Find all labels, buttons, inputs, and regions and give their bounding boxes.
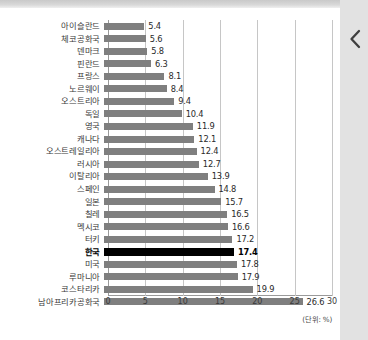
- bar: [104, 211, 227, 218]
- bar-category-label: 핀란드: [0, 60, 104, 68]
- bar: [104, 73, 164, 80]
- table-row: 오스트레일리아12.4: [0, 145, 340, 158]
- bar: [104, 248, 234, 256]
- bar-category-label: 이탈리아: [0, 172, 104, 180]
- table-row: 러시아12.7: [0, 158, 340, 171]
- bar-category-label: 일본: [0, 198, 104, 206]
- bar-track: 13.9: [104, 170, 340, 183]
- bar-track: 5.6: [104, 33, 340, 46]
- bar-track: 9.4: [104, 95, 340, 108]
- bar: [104, 273, 238, 280]
- x-tick-label: 30: [327, 298, 337, 306]
- bar-value-label: 16.5: [231, 210, 249, 218]
- bar-value-label: 17.9: [242, 273, 260, 281]
- bar-category-label: 러시아: [0, 160, 104, 168]
- bar-category-label: 오스트레일리아: [0, 147, 104, 155]
- bar: [104, 123, 193, 130]
- bar-category-label: 스페인: [0, 185, 104, 193]
- x-tick-label: 0: [105, 298, 110, 306]
- table-row: 스페인14.8: [0, 183, 340, 196]
- x-tick-label: 20: [252, 298, 262, 306]
- bar-value-label: 6.3: [155, 60, 168, 68]
- bar-category-label: 캐나다: [0, 135, 104, 143]
- bar-value-label: 17.2: [236, 235, 254, 243]
- bar-track: 16.5: [104, 208, 340, 221]
- bar-value-label: 5.4: [148, 22, 161, 30]
- bar-chart: 아이슬란드5.4체코공화국5.6덴마크5.8핀란드6.3프랑스8.1노르웨이8.…: [0, 8, 340, 340]
- bar: [104, 35, 146, 42]
- bar-value-label: 12.4: [201, 147, 219, 155]
- bar-value-label: 9.4: [178, 97, 191, 105]
- bar-category-label: 터키: [0, 235, 104, 243]
- chevron-left-icon[interactable]: [344, 26, 366, 52]
- bar: [104, 23, 144, 30]
- bar-category-label: 한국: [0, 248, 104, 256]
- table-row: 터키17.2: [0, 233, 340, 246]
- bar-category-label: 아이슬란드: [0, 22, 104, 30]
- bar-category-label: 오스트리아: [0, 97, 104, 105]
- bar-track: 5.4: [104, 20, 340, 33]
- bar-value-label: 17.4: [238, 248, 258, 256]
- bar-value-label: 5.8: [151, 47, 164, 55]
- bar-category-label: 체코공화국: [0, 35, 104, 43]
- bar: [104, 60, 151, 67]
- bar-track: 15.7: [104, 195, 340, 208]
- bar-track: 5.8: [104, 45, 340, 58]
- unit-note: (단위: %): [302, 314, 332, 324]
- table-row: 독일10.4: [0, 108, 340, 121]
- bar: [104, 161, 199, 168]
- table-row: 프랑스8.1: [0, 70, 340, 83]
- bar-value-label: 14.8: [219, 185, 237, 193]
- table-row: 루마니아17.9: [0, 271, 340, 284]
- bar-value-label: 11.9: [197, 122, 215, 130]
- table-row: 오스트리아9.4: [0, 95, 340, 108]
- bar-category-label: 루마니아: [0, 273, 104, 281]
- bar-value-label: 12.1: [198, 135, 216, 143]
- bar: [104, 110, 182, 117]
- bar-value-label: 19.9: [257, 285, 275, 293]
- bar-value-label: 13.9: [212, 172, 230, 180]
- bar: [104, 223, 228, 230]
- table-row: 체코공화국5.6: [0, 33, 340, 46]
- bar: [104, 48, 147, 55]
- bar-track: 17.8: [104, 258, 340, 271]
- table-row: 영국11.9: [0, 120, 340, 133]
- table-row: 미국17.8: [0, 258, 340, 271]
- bar-category-label: 독일: [0, 110, 104, 118]
- bar-category-label: 미국: [0, 260, 104, 268]
- bar: [104, 148, 197, 155]
- bar: [104, 98, 174, 105]
- bar-track: 16.6: [104, 221, 340, 234]
- bar-category-label: 프랑스: [0, 72, 104, 80]
- table-row: 아이슬란드5.4: [0, 20, 340, 33]
- bar-track: 12.4: [104, 145, 340, 158]
- bar: [104, 186, 215, 193]
- bar-value-label: 16.6: [232, 223, 250, 231]
- bar-rows: 아이슬란드5.4체코공화국5.6덴마크5.8핀란드6.3프랑스8.1노르웨이8.…: [0, 20, 340, 296]
- bar-value-label: 8.1: [168, 72, 181, 80]
- bar-track: 14.8: [104, 183, 340, 196]
- bar-category-label: 노르웨이: [0, 85, 104, 93]
- bar-track: 12.1: [104, 133, 340, 146]
- bar-track: 6.3: [104, 58, 340, 71]
- table-row: 캐나다12.1: [0, 133, 340, 146]
- table-row: 멕시코16.6: [0, 221, 340, 234]
- bar: [104, 261, 237, 268]
- bar-track: 17.4: [104, 246, 340, 259]
- bar-value-label: 5.6: [150, 35, 163, 43]
- bar-track: 17.9: [104, 271, 340, 284]
- x-axis-ticks: 051015202530: [108, 298, 332, 312]
- bar-category-label: 덴마크: [0, 47, 104, 55]
- bar-track: 19.9: [104, 283, 340, 296]
- bar-track: 12.7: [104, 158, 340, 171]
- bar-track: 11.9: [104, 120, 340, 133]
- bar-category-label: 영국: [0, 122, 104, 130]
- bar: [104, 85, 167, 92]
- bar: [104, 236, 232, 243]
- table-row: 코스타리카19.9: [0, 283, 340, 296]
- bar-track: 10.4: [104, 108, 340, 121]
- page-root: 아이슬란드5.4체코공화국5.6덴마크5.8핀란드6.3프랑스8.1노르웨이8.…: [0, 0, 368, 340]
- bar-category-label: 남아프리카공화국: [0, 298, 104, 306]
- bar-track: 8.1: [104, 70, 340, 83]
- table-row: 이탈리아13.9: [0, 170, 340, 183]
